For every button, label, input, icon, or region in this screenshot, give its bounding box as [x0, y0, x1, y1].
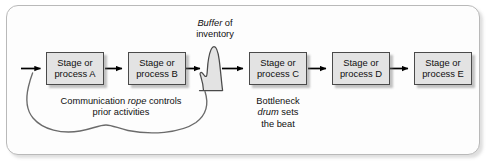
- stage-c-line2: process C: [257, 69, 299, 80]
- buffer-label-line1: Buffer of: [176, 18, 254, 29]
- drum-caption-rest: sets: [279, 107, 299, 117]
- bottleneck-drum-caption: Bottleneck drum sets the beat: [240, 96, 316, 130]
- stage-box-e[interactable]: Stage or process E: [414, 52, 472, 85]
- rope-caption-pre: Communication: [61, 96, 128, 106]
- stage-d-line2: process D: [340, 69, 382, 80]
- stage-b-line2: process B: [136, 69, 178, 80]
- stage-a-line1: Stage or: [57, 58, 92, 69]
- buffer-label-line2: inventory: [176, 29, 254, 40]
- stage-d-line1: Stage or: [343, 58, 378, 69]
- drum-caption-line3: the beat: [240, 119, 316, 130]
- stage-box-c[interactable]: Stage or process C: [249, 52, 307, 85]
- drum-caption-line2: drum sets: [240, 107, 316, 118]
- drum-caption-line1: Bottleneck: [240, 96, 316, 107]
- stage-e-line1: Stage or: [425, 58, 460, 69]
- rope-caption-line2: prior activities: [42, 107, 200, 118]
- stage-box-a[interactable]: Stage or process A: [46, 52, 104, 85]
- buffer-inventory-label: Buffer of inventory: [176, 18, 254, 41]
- rope-caption-post: controls: [146, 96, 181, 106]
- stage-e-line2: process E: [422, 69, 464, 80]
- stage-c-line1: Stage or: [260, 58, 295, 69]
- buffer-label-italic: Buffer: [197, 18, 222, 28]
- stage-a-line2: process A: [54, 69, 95, 80]
- communication-rope-caption: Communication rope controls prior activi…: [42, 96, 200, 119]
- stage-b-line1: Stage or: [139, 58, 174, 69]
- stage-box-d[interactable]: Stage or process D: [332, 52, 390, 85]
- rope-caption-italic: rope: [128, 96, 147, 106]
- stage-box-b[interactable]: Stage or process B: [128, 52, 186, 85]
- drum-caption-italic: drum: [258, 107, 279, 117]
- buffer-label-rest: of: [222, 18, 232, 28]
- diagram-canvas: Stage or process A Stage or process B St…: [0, 0, 492, 167]
- rope-caption-line1: Communication rope controls: [42, 96, 200, 107]
